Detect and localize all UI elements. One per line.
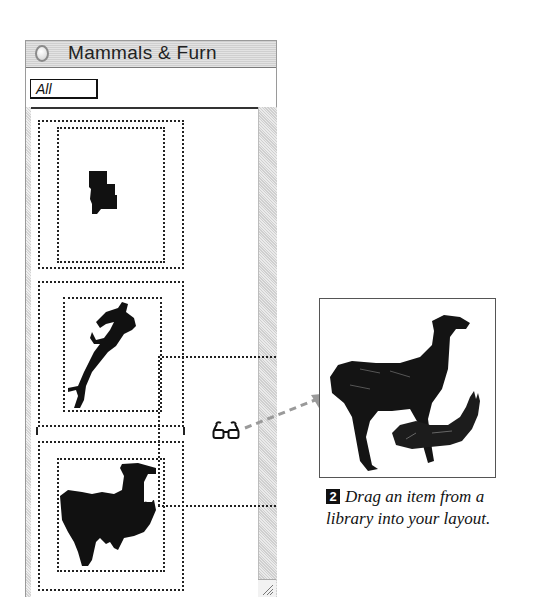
deer-silhouette-icon <box>66 300 160 410</box>
llama-engraving-image <box>319 298 496 478</box>
title-bar[interactable]: Mammals & Furn <box>26 41 276 68</box>
selection-tick-right <box>183 427 185 435</box>
step-caption: 2Drag an item from a library into your l… <box>326 486 490 530</box>
caption-text-1: Drag an item from a <box>345 487 484 506</box>
leader-line-bottom <box>158 505 276 507</box>
caption-line-2: library into your layout. <box>326 508 490 530</box>
vertical-scrollbar[interactable] <box>258 107 277 597</box>
glasses-drag-icon <box>212 420 240 440</box>
header-divider <box>26 107 258 109</box>
leader-line-vertical <box>158 356 160 506</box>
selection-tick-left <box>36 427 38 435</box>
resize-grip-icon[interactable] <box>258 579 276 597</box>
step-number-badge: 2 <box>326 489 340 504</box>
window-title: Mammals & Furn <box>68 42 217 64</box>
llama-silhouette-icon <box>58 462 164 568</box>
caption-line-1: 2Drag an item from a <box>326 486 490 508</box>
leader-line-top <box>158 356 276 358</box>
library-filter-field[interactable]: All <box>30 79 98 99</box>
object-silhouette-icon <box>87 169 123 215</box>
close-box-icon[interactable] <box>35 45 49 62</box>
window-left-edge <box>26 107 31 597</box>
